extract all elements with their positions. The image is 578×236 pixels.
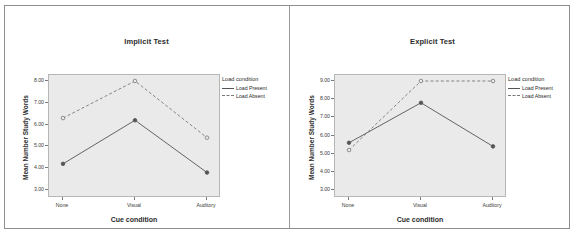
legend-explicit: Load condition Load Present Load Absent [508,76,578,100]
plot-canvas-implicit [49,75,219,196]
x-tick-mark [206,197,207,200]
data-point [133,118,137,122]
y-tick-mark [45,102,48,103]
x-tick-label: Visual [114,202,154,208]
plot-area-implicit [48,74,220,197]
legend-label-load-present: Load Present [236,85,267,91]
y-tick-label: 4.00 [18,164,44,170]
legend-item-load-present[interactable]: Load Present [222,85,292,91]
y-tick-label: 5.00 [18,142,44,148]
legend-label-load-present: Load Present [522,85,553,91]
data-point [419,101,423,105]
data-point [419,79,423,83]
plot-area-explicit [334,74,506,197]
legend-item-load-present[interactable]: Load Present [508,85,578,91]
y-tick-mark [331,98,334,99]
legend-item-load-absent[interactable]: Load Absent [222,93,292,99]
x-tick-mark [420,197,421,200]
data-point [205,171,209,175]
y-tick-mark [331,80,334,81]
y-tick-mark [45,124,48,125]
y-tick-label: 4.00 [304,168,330,174]
chart-title-explicit: Explicit Test [290,37,575,46]
x-tick-label: Visual [400,202,440,208]
y-tick-label: 3.00 [18,186,44,192]
legend-line-dashed-icon [222,93,234,98]
legend-label-load-absent: Load Absent [236,93,265,99]
plot-canvas-explicit [335,75,505,196]
y-tick-mark [331,116,334,117]
legend-implicit: Load condition Load Present Load Absent [222,76,292,100]
x-tick-mark [348,197,349,200]
x-tick-mark [492,197,493,200]
x-tick-mark [62,197,63,200]
series-line-load-present [349,103,493,147]
y-tick-mark [45,80,48,81]
y-tick-mark [45,167,48,168]
data-point [61,162,65,166]
chart-svg [49,75,221,198]
data-point [133,79,137,83]
x-tick-label: None [42,202,82,208]
y-tick-label: 8.00 [304,95,330,101]
legend-title-explicit: Load condition [508,76,578,82]
series-line-load-absent [63,81,207,138]
y-tick-mark [331,153,334,154]
x-tick-label: Auditory [472,202,512,208]
data-point [61,116,65,120]
legend-line-solid-icon [508,86,520,91]
data-point [491,79,495,83]
y-tick-label: 8.00 [18,77,44,83]
y-tick-label: 6.00 [18,121,44,127]
series-line-load-absent [349,81,493,150]
y-tick-mark [45,145,48,146]
x-tick-label: Auditory [186,202,226,208]
y-tick-mark [331,135,334,136]
legend-line-solid-icon [222,86,234,91]
y-tick-label: 9.00 [304,77,330,83]
x-tick-mark [134,197,135,200]
legend-label-load-absent: Load Absent [522,93,551,99]
y-tick-mark [331,189,334,190]
y-tick-mark [331,171,334,172]
chart-title-implicit: Implicit Test [4,37,289,46]
x-tick-label: None [328,202,368,208]
figure-page: Implicit Test Mean Number Study Words Cu… [0,0,578,236]
y-tick-mark [45,189,48,190]
y-tick-label: 6.00 [304,132,330,138]
y-tick-label: 7.00 [18,99,44,105]
data-point [491,145,495,149]
legend-line-dashed-icon [508,93,520,98]
y-tick-label: 5.00 [304,150,330,156]
chart-svg [335,75,507,198]
y-tick-label: 3.00 [304,186,330,192]
y-tick-label: 7.00 [304,113,330,119]
series-line-load-present [63,120,207,172]
legend-title-implicit: Load condition [222,76,292,82]
x-axis-label-implicit: Cue condition [48,216,220,223]
data-point [347,141,351,145]
legend-item-load-absent[interactable]: Load Absent [508,93,578,99]
data-point [205,136,209,140]
x-axis-label-explicit: Cue condition [334,216,506,223]
data-point [347,148,351,152]
